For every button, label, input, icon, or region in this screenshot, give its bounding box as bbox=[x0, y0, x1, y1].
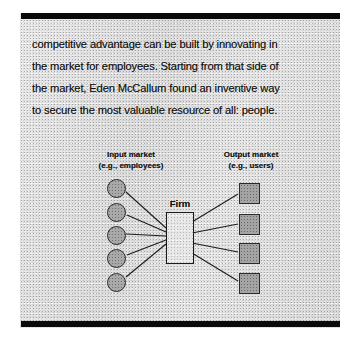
body-text-line-4: to secure the most valuable resource of … bbox=[32, 99, 332, 121]
body-text-line-1: competitive advantage can be built by in… bbox=[32, 33, 332, 55]
printing-bar-top bbox=[21, 13, 340, 19]
body-text-line-2: the market for employees. Starting from … bbox=[32, 55, 332, 77]
body-text-line-3: the market, Eden McCallum found an inven… bbox=[32, 77, 332, 99]
page-root: competitive advantage can be built by in… bbox=[0, 0, 353, 338]
printing-bar-bottom bbox=[21, 321, 340, 327]
body-text-block: competitive advantage can be built by in… bbox=[32, 33, 332, 121]
